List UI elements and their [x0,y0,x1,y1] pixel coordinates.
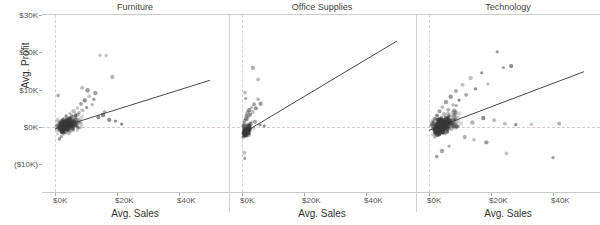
data-point [85,106,88,109]
data-point [459,121,463,125]
x-axis-title: Avg. Sales [416,207,600,220]
trend-line [55,80,210,129]
data-point [496,50,499,53]
scatter-panel-technology[interactable] [416,15,600,192]
data-point [446,108,450,112]
facet-header-office-supplies: Office Supplies [229,1,415,14]
data-point [448,118,452,122]
data-point [76,129,79,132]
data-point [91,103,94,106]
x-tick-label: $0K [427,196,441,205]
data-point [61,132,64,135]
x-tick-mark [366,193,367,196]
x-tick-mark [117,193,118,196]
data-point [440,149,445,154]
data-point [435,113,439,117]
x-axis-title: Avg. Sales [229,207,415,220]
data-point [254,106,258,110]
data-point [65,114,68,117]
facet-header-technology: Technology [416,1,600,14]
data-point [451,110,455,114]
data-point [454,89,458,93]
data-point [258,102,262,106]
data-point [81,114,84,117]
data-point [455,104,458,107]
data-point [107,118,111,122]
x-tick-mark [55,193,56,196]
data-point [63,121,67,126]
data-point [252,102,256,106]
y-axis-title: Avg. Profit [20,21,31,111]
data-point [509,64,513,68]
data-point [85,88,90,93]
data-point [442,112,446,116]
data-point [62,128,65,131]
data-point [263,124,266,127]
data-point [435,132,438,135]
data-point [66,117,71,122]
data-point [486,82,489,85]
data-point [451,103,455,107]
data-point [56,94,60,98]
data-point [435,155,439,159]
data-point [70,115,73,118]
data-point [56,132,59,135]
x-tick-mark [242,193,243,196]
data-point [438,109,442,113]
data-point [446,116,449,119]
scatter-panel-office-supplies[interactable] [229,15,415,192]
x-tick-mark [304,193,305,196]
facet-header-furniture: Furniture [42,1,228,14]
x-axis-title: Avg. Sales [42,207,228,220]
x-axis-line [42,192,600,193]
y-tick-label: $30K [0,11,38,20]
x-tick-mark [553,193,554,196]
data-point [243,91,247,95]
data-point [81,109,84,112]
x-tick-label: $0K [240,196,254,205]
x-tick-label: $40K [364,196,383,205]
data-point [253,120,257,124]
y-tick-label: $0K [0,123,38,132]
data-point [504,152,508,156]
data-point [448,94,453,99]
data-point [460,83,464,87]
x-tick-mark [429,193,430,196]
data-point [79,102,83,106]
data-point [530,123,533,126]
data-point [484,140,488,144]
data-point [248,121,252,125]
data-point [472,138,476,142]
y-tick-label: $20K [0,48,38,57]
y-tick-label: ($10K) [0,160,38,169]
data-point [74,114,78,118]
data-point [243,123,247,127]
data-point [92,98,95,101]
data-point [114,119,117,122]
data-point [470,120,475,125]
data-point [242,151,246,155]
data-point [256,77,260,81]
data-point [446,111,450,115]
data-point [551,156,554,159]
scatter-matrix-viz: Avg. Profit $30K$20K$10K$0K($10K)Furnitu… [0,0,600,225]
data-point [445,130,449,134]
x-tick-label: $20K [302,196,321,205]
data-point [71,109,76,114]
data-point [68,112,71,115]
data-point [250,110,254,114]
data-point [463,135,467,139]
data-point [110,75,115,80]
data-point [441,105,445,109]
data-point [256,98,260,102]
data-point [77,111,80,114]
data-point [93,91,97,95]
scatter-panel-furniture[interactable] [42,15,228,192]
data-point [492,118,496,122]
y-tick-label: $10K [0,86,38,95]
data-point [245,132,248,135]
data-point [481,116,485,120]
data-point [250,106,253,109]
trend-line [242,41,397,134]
data-point [464,93,468,97]
